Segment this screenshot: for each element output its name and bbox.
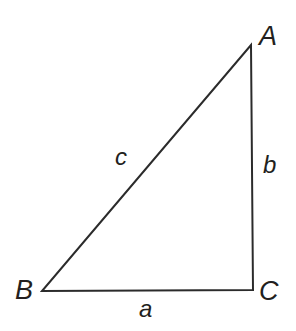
side-label-a: a bbox=[139, 297, 152, 321]
side-label-c: c bbox=[115, 145, 127, 169]
side-label-b: b bbox=[263, 153, 276, 177]
triangle-figure: A B C a b c bbox=[0, 0, 296, 331]
triangle-outline bbox=[42, 45, 253, 291]
triangle-drawing bbox=[0, 0, 296, 331]
vertex-label-a: A bbox=[259, 23, 277, 50]
vertex-label-c: C bbox=[259, 278, 279, 305]
vertex-label-b: B bbox=[15, 277, 33, 304]
